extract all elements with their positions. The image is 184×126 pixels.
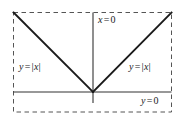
label-x-equals-zero-lhs: x xyxy=(98,14,103,25)
label-y-equals-abs-x-right-lhs: y xyxy=(129,61,134,72)
absolute-value-curve-left-branch xyxy=(14,13,94,93)
label-y-equals-zero-rhs: 0 xyxy=(153,95,158,106)
label-x-equals-zero: x=0 xyxy=(98,14,116,25)
label-y-equals-abs-x-right: y=|x| xyxy=(129,61,151,72)
label-y-equals-abs-x-left: y=|x| xyxy=(19,61,41,72)
label-y-equals-abs-x-left-bar-close: | xyxy=(39,60,41,72)
label-y-equals-abs-x-right-bar-close: | xyxy=(149,60,151,72)
label-y-equals-zero-lhs: y xyxy=(141,95,146,106)
label-x-equals-zero-rhs: 0 xyxy=(110,14,115,25)
label-y-equals-zero: y=0 xyxy=(141,95,159,106)
label-y-equals-abs-x-left-lhs: y xyxy=(19,61,24,72)
absolute-value-graph-figure: x=0 y=|x| y=|x| y=0 xyxy=(0,0,184,126)
